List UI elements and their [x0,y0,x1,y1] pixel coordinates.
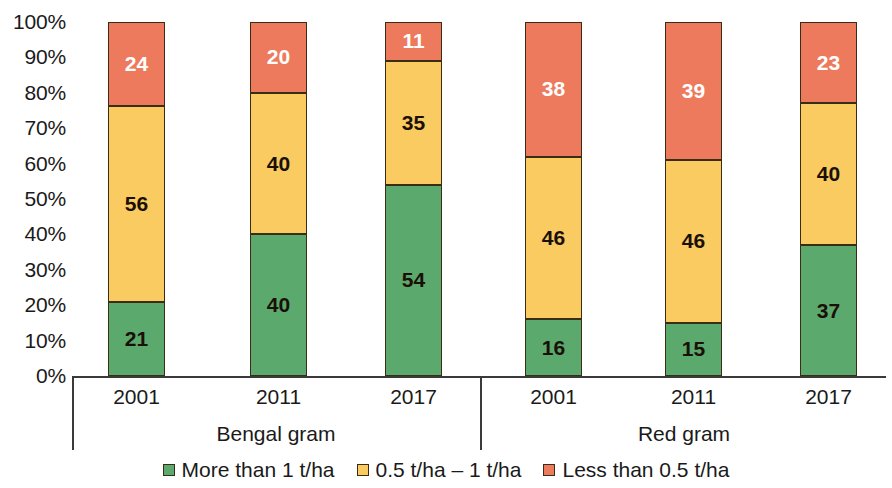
bar-segment: 15 [665,323,722,376]
x-axis-tick-label: 2017 [364,385,464,409]
bar-segment: 40 [250,234,307,376]
x-axis-baseline [72,376,886,378]
bar-segment-value-label: 20 [267,45,290,69]
x-axis-tick-label: 2001 [87,385,187,409]
legend-swatch-icon [543,464,555,476]
plot-area: 245621204040113554384616394615234037 [72,22,886,376]
y-axis-tick-label: 20% [0,294,66,315]
group-label-bengal-gram: Bengal gram [72,422,480,446]
bar-segment: 20 [250,22,307,93]
bar-bengal-gram-2011: 204040 [250,22,307,376]
bar-segment-value-label: 40 [267,293,290,317]
y-axis-tick-label: 50% [0,188,66,209]
bar-segment: 54 [385,185,442,376]
y-axis: 100%90%80%70%60%50%40%30%20%10%0% [0,0,66,400]
legend-item[interactable]: Less than 0.5 t/ha [543,459,729,480]
bar-segment-value-label: 23 [817,51,840,75]
bar-segment-value-label: 37 [817,299,840,323]
bar-segment-value-label: 56 [125,192,148,216]
bar-segment-value-label: 21 [125,327,148,351]
bar-segment: 38 [525,22,582,157]
x-axis-tick-label: 2011 [229,385,329,409]
bar-bengal-gram-2001: 245621 [108,22,165,376]
bar-segment: 21 [108,302,165,376]
y-axis-tick-label: 100% [0,11,66,32]
y-axis-tick-label: 10% [0,330,66,351]
bar-segment-value-label: 40 [817,162,840,186]
bar-segment-value-label: 15 [682,337,705,361]
x-axis-tick-label: 2001 [504,385,604,409]
bar-segment: 40 [250,93,307,235]
bar-segment-value-label: 46 [682,229,705,253]
bar-segment: 23 [800,22,857,103]
legend-swatch-icon [163,464,175,476]
bar-segment-value-label: 54 [402,268,425,292]
bar-segment-value-label: 35 [402,111,425,135]
x-axis-tick-label: 2011 [644,385,744,409]
bar-segment-value-label: 24 [125,52,148,76]
y-axis-tick-label: 30% [0,259,66,280]
y-axis-tick-label: 40% [0,223,66,244]
bar-segment-value-label: 40 [267,152,290,176]
x-axis-tick-label: 2017 [779,385,879,409]
bar-segment: 35 [385,61,442,185]
y-axis-tick-label: 80% [0,82,66,103]
bar-segment: 24 [108,22,165,106]
bar-bengal-gram-2017: 113554 [385,22,442,376]
legend-item-label: More than 1 t/ha [182,459,335,480]
legend-item-label: 0.5 t/ha – 1 t/ha [376,459,522,480]
bar-segment-value-label: 11 [402,29,424,53]
y-axis-tick-label: 90% [0,46,66,67]
chart-legend: More than 1 t/ha0.5 t/ha – 1 t/haLess th… [0,459,892,480]
legend-item[interactable]: More than 1 t/ha [163,459,335,480]
bar-red-gram-2011: 394615 [665,22,722,376]
bar-segment: 11 [385,22,442,61]
legend-swatch-icon [357,464,369,476]
bar-segment: 56 [108,106,165,302]
bar-segment: 16 [525,319,582,376]
bar-segment: 40 [800,103,857,245]
bar-segment: 37 [800,245,857,376]
bar-red-gram-2017: 234037 [800,22,857,376]
bar-segment: 39 [665,22,722,160]
bar-segment-value-label: 39 [682,79,705,103]
bar-segment-value-label: 38 [542,77,565,101]
legend-item-label: Less than 0.5 t/ha [562,459,729,480]
stacked-bar-chart: 100%90%80%70%60%50%40%30%20%10%0% 245621… [0,0,892,488]
bar-segment-value-label: 16 [542,336,565,360]
bar-segment: 46 [665,160,722,323]
group-label-red-gram: Red gram [482,422,886,446]
legend-item[interactable]: 0.5 t/ha – 1 t/ha [357,459,522,480]
y-axis-tick-label: 0% [0,365,66,386]
y-axis-tick-label: 70% [0,117,66,138]
bar-segment: 46 [525,157,582,320]
y-axis-tick-label: 60% [0,153,66,174]
bar-red-gram-2001: 384616 [525,22,582,376]
bar-segment-value-label: 46 [542,226,565,250]
